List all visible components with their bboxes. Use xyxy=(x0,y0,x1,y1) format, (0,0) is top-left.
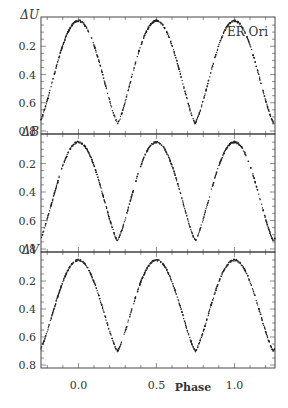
panel-b: 0.20.40.60.8ΔB xyxy=(19,125,276,256)
y-tick-label: 0.4 xyxy=(19,303,37,316)
panel-v: 0.20.40.60.8ΔV xyxy=(19,243,276,372)
x-tick-label: 1.0 xyxy=(226,379,244,392)
y-tick-label: 0.8 xyxy=(19,359,37,372)
y-tick-label: 0.2 xyxy=(19,158,37,171)
star-name-label: ER Ori xyxy=(227,25,268,39)
y-tick-label: 0.2 xyxy=(19,40,37,53)
panel-label: ΔB xyxy=(21,125,40,139)
y-tick-label: 0.6 xyxy=(19,215,37,228)
panel-label: ΔU xyxy=(19,8,40,22)
x-tick-label: 0.0 xyxy=(70,379,88,392)
panel-frame xyxy=(41,134,275,252)
light-curve-figure: 0.20.40.60.8ΔU0.20.40.60.8ΔB0.20.40.60.8… xyxy=(0,0,288,408)
x-tick-label: 0.5 xyxy=(148,379,166,392)
y-tick-label: 0.6 xyxy=(19,97,37,110)
y-tick-label: 0.4 xyxy=(19,186,37,199)
x-axis-label: Phase xyxy=(175,381,212,394)
y-tick-label: 0.6 xyxy=(19,331,37,344)
panel-label: ΔV xyxy=(21,243,41,257)
panel-frame xyxy=(41,252,275,368)
y-tick-label: 0.4 xyxy=(19,69,37,82)
y-tick-label: 0.2 xyxy=(19,275,37,288)
